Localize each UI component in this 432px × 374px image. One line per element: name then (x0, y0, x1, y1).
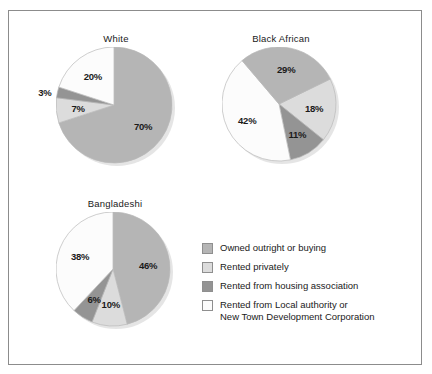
pie-slice-label: 29% (277, 64, 295, 75)
pie-slice-label: 11% (288, 129, 306, 140)
pie-body-black-african: 18%11%42%29% (222, 47, 340, 165)
pie-slice-label: 42% (238, 114, 256, 125)
pie-slice-label: 10% (102, 299, 120, 310)
legend-label-private: Rented privately (220, 261, 289, 273)
pie-title-black-african: Black African (222, 33, 340, 44)
pie-body-white: 70%7%3%20% (56, 47, 176, 167)
legend-label-housing-association: Rented from housing association (220, 280, 358, 292)
pie-chart-white: White 70%7%3%20% (56, 33, 176, 167)
pie-title-bangladeshi: Bangladeshi (56, 198, 174, 209)
chart-legend: Owned outright or buying Rented privatel… (202, 242, 412, 329)
pie-slice-label: 18% (305, 102, 323, 113)
pie-slice-label: 7% (72, 103, 85, 114)
legend-item: Rented from Local authority or New Town … (202, 299, 412, 322)
legend-label-owned: Owned outright or buying (220, 242, 326, 254)
legend-item: Rented from housing association (202, 280, 412, 292)
legend-swatch-housing-association (202, 281, 213, 292)
pie-body-bangladeshi: 46%10%6%38% (56, 212, 174, 330)
pie-slice-label: 70% (134, 121, 152, 132)
legend-swatch-private (202, 262, 213, 273)
pie-slice-label: 6% (87, 293, 100, 304)
legend-item: Rented privately (202, 261, 412, 273)
pie-chart-black-african: Black African 18%11%42%29% (222, 33, 340, 165)
pie-slice-label: 46% (139, 259, 157, 270)
legend-swatch-local-authority (202, 300, 213, 311)
legend-label-local-authority: Rented from Local authority or New Town … (220, 299, 375, 322)
pie-chart-bangladeshi: Bangladeshi 46%10%6%38% (56, 198, 174, 330)
pie-slice-label: 3% (38, 86, 51, 97)
pie-slices (56, 212, 174, 330)
legend-item: Owned outright or buying (202, 242, 412, 254)
legend-swatch-owned (202, 243, 213, 254)
pie-slice-label: 38% (71, 251, 89, 262)
pie-slice-label: 20% (84, 70, 102, 81)
pie-title-white: White (56, 33, 176, 44)
chart-frame: White 70%7%3%20% Black African 18%11%42%… (8, 10, 422, 365)
